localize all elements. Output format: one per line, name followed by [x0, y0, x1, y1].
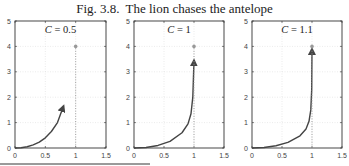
y-tick-label: 4 [126, 43, 130, 50]
chart-panel-2: 00.511.5012345C = 1 [126, 18, 229, 160]
y-tick-label: 5 [126, 18, 130, 25]
y-tick-label: 2 [7, 94, 11, 101]
x-tick-label: 0 [13, 152, 17, 159]
panel-label: C = 1 [167, 24, 190, 35]
lion-path [15, 106, 64, 148]
x-tick-label: 0.5 [40, 152, 50, 159]
chart-panel-3: 00.511.5012345C = 1.1 [244, 18, 347, 160]
x-tick-label: 0 [250, 152, 254, 159]
antelope-marker [310, 45, 314, 49]
x-tick-label: 1 [74, 152, 78, 159]
plots-area: 00.511.5012345C = 0.500.511.5012345C = 1… [0, 0, 349, 166]
y-tick-label: 3 [7, 68, 11, 75]
x-tick-label: 1.5 [219, 152, 229, 159]
y-tick-label: 0 [244, 145, 248, 152]
y-tick-label: 4 [244, 43, 248, 50]
x-tick-label: 1.5 [337, 152, 347, 159]
x-tick-label: 1.5 [101, 152, 111, 159]
antelope-marker [192, 45, 196, 49]
x-tick-label: 0 [132, 152, 136, 159]
y-tick-label: 3 [126, 68, 130, 75]
y-tick-label: 0 [126, 145, 130, 152]
x-tick-label: 0.5 [277, 152, 287, 159]
antelope-marker [74, 45, 78, 49]
panel-label: C = 1.1 [281, 24, 312, 35]
y-tick-label: 2 [126, 94, 130, 101]
y-tick-label: 2 [244, 94, 248, 101]
y-tick-label: 5 [244, 18, 248, 25]
x-tick-label: 1 [192, 152, 196, 159]
chart-panel-1: 00.511.5012345C = 0.5 [7, 18, 111, 160]
plot-frame [134, 21, 224, 148]
y-tick-label: 1 [126, 119, 130, 126]
y-tick-label: 3 [244, 68, 248, 75]
x-tick-label: 1 [310, 152, 314, 159]
x-tick-label: 0.5 [159, 152, 169, 159]
plot-frame [252, 21, 342, 148]
y-tick-label: 1 [7, 119, 11, 126]
panel-label: C = 0.5 [45, 24, 76, 35]
y-tick-label: 1 [244, 119, 248, 126]
y-tick-label: 0 [7, 145, 11, 152]
y-tick-label: 5 [7, 18, 11, 25]
plot-frame [15, 21, 106, 148]
divider [0, 163, 150, 165]
y-tick-label: 4 [7, 43, 11, 50]
